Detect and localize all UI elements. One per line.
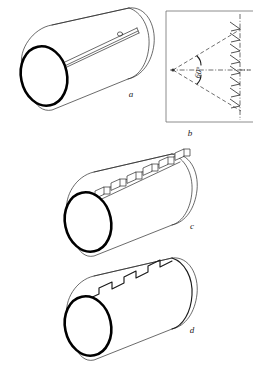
panel-b-apex-point — [171, 68, 174, 71]
panel-b-angle-arc-upper — [197, 56, 201, 65]
panel-b-ray-lower — [173, 70, 241, 111]
hatch-tick — [230, 55, 240, 64]
hatch-tick — [230, 99, 240, 108]
hatch-tick — [230, 66, 240, 75]
panel-c-label: c — [190, 221, 194, 231]
panel-b-group: 60° b — [166, 11, 253, 138]
panel-b-label: b — [188, 128, 193, 138]
panel-b-angle-label: 60° — [193, 65, 204, 79]
figure-container: a — [0, 0, 253, 383]
hatch-tick — [230, 22, 240, 31]
panel-a-label: a — [129, 89, 134, 99]
technical-diagram: a — [0, 0, 253, 383]
panel-a-group: a — [15, 8, 154, 111]
panel-c-group: c — [59, 149, 197, 256]
panel-d-label: d — [190, 325, 195, 335]
hatch-tick — [230, 33, 240, 42]
hatch-tick — [230, 77, 240, 86]
hatch-tick — [230, 44, 240, 53]
hatch-tick — [230, 88, 240, 97]
panel-d-group: d — [59, 258, 197, 361]
panel-b-hatch-group — [230, 22, 240, 108]
panel-b-ray-upper — [173, 29, 241, 70]
